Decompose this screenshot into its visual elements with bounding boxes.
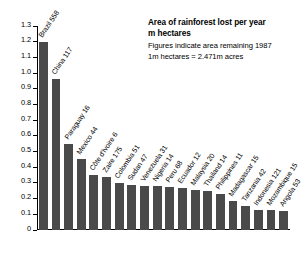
bar-group: Sudan 47 [127,185,136,230]
bar-group: Colombia 51 [115,183,124,230]
bar [115,183,124,230]
y-axis-tick-label: 0.7 [21,115,31,122]
bar [229,201,238,230]
y-axis-tick-label: 0.4 [21,162,31,169]
bar [241,206,250,230]
bar-group: Indonesia 121 [254,210,263,230]
bar-group: Brazil 558 [39,42,48,230]
bar-label: Brazil 558 [38,9,61,38]
bar [165,187,174,230]
bar [279,211,288,230]
y-axis-tick-label: 0.2 [21,193,31,200]
bar [153,186,162,230]
bar-group: Mexico 44 [77,159,86,230]
bar [64,144,73,230]
y-axis: 1.31.21.11.00.90.80.70.60.50.40.30.20.10 [0,26,37,230]
bar [267,210,276,230]
bar [52,79,61,230]
bar [39,42,48,230]
bar-group: Mozambique 15 [267,210,276,230]
bar [254,210,263,230]
bar-group: China 117 [52,79,61,230]
bar-label: China 117 [51,47,74,77]
bar [178,188,187,230]
bar [102,177,111,230]
y-axis-tick-label: 1.2 [21,36,31,43]
y-axis-tick-label: 0.3 [21,177,31,184]
bar-group: Philippines 11 [216,194,225,230]
rainforest-loss-bar-chart: Area of rainforest lost per year m hecta… [0,0,303,280]
y-axis-tick-label: 0.9 [21,83,31,90]
y-axis-tick-label: 0.6 [21,130,31,137]
bar-group: Paraguay 16 [64,144,73,230]
bar-group: Malaysia 20 [191,190,200,230]
x-axis-baseline [37,229,290,230]
bar-group: Zaire 175 [102,177,111,230]
y-axis-tick-label: 0 [27,225,31,232]
bar [191,190,200,230]
bar [89,175,98,230]
bar-group: Peru 68 [165,187,174,230]
bar-group: Nigeria 14 [153,186,162,230]
y-axis-spine [37,26,38,230]
y-axis-tick-label: 0.8 [21,99,31,106]
bar [140,186,149,230]
bar-group: Tanzania 42 [241,206,250,230]
bar-group: Madagascar 15 [229,201,238,230]
bar [203,191,212,230]
y-axis-tick-label: 0.1 [21,209,31,216]
y-axis-tick-label: 1.0 [21,68,31,75]
plot-area: Brazil 558China 117Paraguay 16Mexico 44C… [37,26,290,230]
bar-group: Thailand 14 [203,191,212,230]
bar [77,159,86,230]
bar [127,185,136,230]
bar-group: Ecuador 12 [178,188,187,230]
bar-group: Côte d'Ivoire 6 [89,175,98,230]
y-axis-tick-label: 1.3 [21,21,31,28]
bar-group: Angola 53 [279,211,288,230]
y-axis-tick-label: 1.1 [21,52,31,59]
bar [216,194,225,230]
y-axis-tick-label: 0.5 [21,146,31,153]
bar-group: Venezuela 31 [140,186,149,230]
bar-label: Mexico 44 [76,126,99,156]
